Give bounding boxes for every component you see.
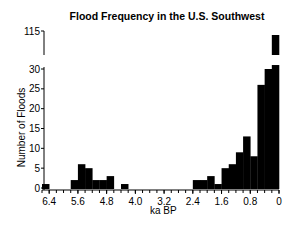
histogram-bar: [265, 69, 272, 189]
histogram-bar: [207, 176, 214, 189]
histogram-plot: 0510152025301156.45.64.84.03.22.41.60.80: [0, 0, 294, 233]
y-tick-label: 15: [29, 123, 41, 134]
histogram-bar: [107, 176, 114, 189]
histogram-bar: [214, 184, 221, 189]
histogram-bar: [272, 65, 279, 189]
y-tick-label: 25: [29, 83, 41, 94]
histogram-bar: [222, 168, 229, 189]
histogram-bar: [99, 180, 106, 189]
y-tick-label: 115: [24, 26, 40, 37]
y-tick-label: 20: [29, 103, 41, 114]
histogram-bar: [121, 184, 128, 189]
x-tick-label: 2.4: [186, 196, 200, 207]
y-tick-label: 5: [34, 163, 40, 174]
y-tick-label: 30: [29, 64, 41, 75]
histogram-bar: [243, 136, 250, 189]
x-tick-label: 0: [276, 196, 282, 207]
x-tick-label: 4.8: [100, 196, 114, 207]
histogram-bar: [78, 164, 85, 189]
histogram-bar: [257, 85, 264, 189]
x-tick-label: 4.0: [128, 196, 142, 207]
histogram-bar: [193, 180, 200, 189]
y-tick-label: 0: [34, 183, 40, 194]
histogram-bar-upper: [272, 35, 279, 55]
histogram-bar: [85, 168, 92, 189]
x-tick-label: 5.6: [71, 196, 85, 207]
y-tick-label: 10: [29, 143, 41, 154]
histogram-bar: [229, 164, 236, 189]
histogram-bar: [71, 180, 78, 189]
x-tick-label: 0.8: [243, 196, 257, 207]
histogram-bar: [92, 180, 99, 189]
histogram-bar: [250, 156, 257, 189]
x-tick-label: 3.2: [157, 196, 171, 207]
histogram-bar: [200, 180, 207, 189]
x-tick-label: 1.6: [215, 196, 229, 207]
histogram-bar: [236, 152, 243, 189]
x-tick-label: 6.4: [42, 196, 56, 207]
